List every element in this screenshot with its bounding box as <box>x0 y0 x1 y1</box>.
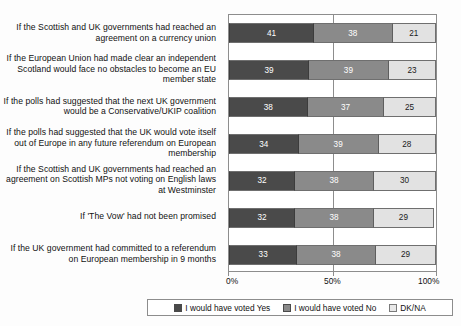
bar-value-label: 32 <box>258 176 267 185</box>
bar-segment: 32 <box>229 208 295 228</box>
bar-segment: 39 <box>229 60 309 80</box>
bar-value-label: 41 <box>267 29 276 38</box>
bar-segment: 29 <box>374 208 434 228</box>
bar-segment: 38 <box>297 245 376 265</box>
bar-segment: 33 <box>229 245 297 265</box>
bar-value-label: 38 <box>330 176 339 185</box>
bar-segment: 37 <box>308 97 385 117</box>
bar-value-label: 38 <box>332 250 341 259</box>
bar-value-label: 25 <box>405 103 414 112</box>
bar-row: 393923 <box>229 60 436 80</box>
figure-caption <box>6 318 306 326</box>
bar-row: 413821 <box>229 23 436 43</box>
category-label: If the UK government had committed to a … <box>0 243 216 264</box>
bar-row: 383725 <box>229 97 436 117</box>
category-label: If the polls had suggested that the next… <box>0 96 216 117</box>
axis-tick-label: 0% <box>226 276 238 286</box>
category-label: If the European Union had made clear an … <box>0 53 216 85</box>
category-label: If the polls had suggested that the UK w… <box>0 127 216 159</box>
bar-segment: 38 <box>229 97 308 117</box>
bar-segment: 38 <box>295 171 374 191</box>
bar-value-label: 34 <box>259 140 268 149</box>
bar-segment: 38 <box>314 23 393 43</box>
bar-value-label: 32 <box>258 213 267 222</box>
legend-label: DK/NA <box>400 303 425 313</box>
bar-segment: 30 <box>374 171 436 191</box>
legend-item[interactable]: DK/NA <box>389 303 425 313</box>
bar-row: 323829 <box>229 208 436 228</box>
category-label-column: If the Scottish and UK governments had r… <box>0 14 222 272</box>
bar-row: 323830 <box>229 171 436 191</box>
bar-segment: 23 <box>389 60 436 80</box>
bar-value-label: 38 <box>348 29 357 38</box>
bar-segment: 39 <box>299 134 379 154</box>
bar-value-label: 38 <box>264 103 273 112</box>
bar-row: 333829 <box>229 245 436 265</box>
bar-value-label: 39 <box>264 66 273 75</box>
bar-segment: 38 <box>295 208 374 228</box>
bar-segment: 34 <box>229 134 299 154</box>
legend-item[interactable]: I would have voted No <box>283 303 376 313</box>
legend-label: I would have voted Yes <box>185 303 270 313</box>
legend-item[interactable]: I would have voted Yes <box>174 303 270 313</box>
category-label: If 'The Vow' had not been promised <box>0 211 216 222</box>
bar-row: 343928 <box>229 134 436 154</box>
stacked-bar-chart-figure: If the Scottish and UK governments had r… <box>0 0 461 326</box>
bar-value-label: 39 <box>334 140 343 149</box>
bar-value-label: 30 <box>400 176 409 185</box>
category-label: If the Scottish and UK governments had r… <box>0 22 216 43</box>
legend-label: I would have voted No <box>294 303 376 313</box>
bar-value-label: 37 <box>341 103 350 112</box>
bar-segment: 32 <box>229 171 295 191</box>
bar-segment: 41 <box>229 23 314 43</box>
bar-segment: 39 <box>309 60 389 80</box>
bar-value-label: 39 <box>344 66 353 75</box>
bar-value-label: 21 <box>409 29 418 38</box>
bar-segment: 25 <box>384 97 436 117</box>
bar-value-label: 29 <box>401 250 410 259</box>
legend-swatch-icon <box>389 304 397 312</box>
plot-area: 4138213939233837253439283238303238293338… <box>228 14 437 272</box>
legend-swatch-icon <box>174 304 182 312</box>
bar-segment: 28 <box>379 134 436 154</box>
legend-swatch-icon <box>283 304 291 312</box>
axis-tick-label: 50% <box>324 276 341 286</box>
axis-tick-label: 100% <box>418 276 439 286</box>
bar-value-label: 28 <box>402 140 411 149</box>
bar-value-label: 33 <box>259 250 268 259</box>
bar-segment: 29 <box>376 245 436 265</box>
category-label: If the Scottish and UK governments had r… <box>0 164 216 196</box>
bar-value-label: 29 <box>399 213 408 222</box>
bar-segment: 21 <box>393 23 436 43</box>
bar-value-label: 23 <box>407 66 416 75</box>
chart-legend: I would have voted YesI would have voted… <box>147 299 453 316</box>
x-axis: 0%50%100% <box>228 272 437 290</box>
bar-value-label: 38 <box>330 213 339 222</box>
